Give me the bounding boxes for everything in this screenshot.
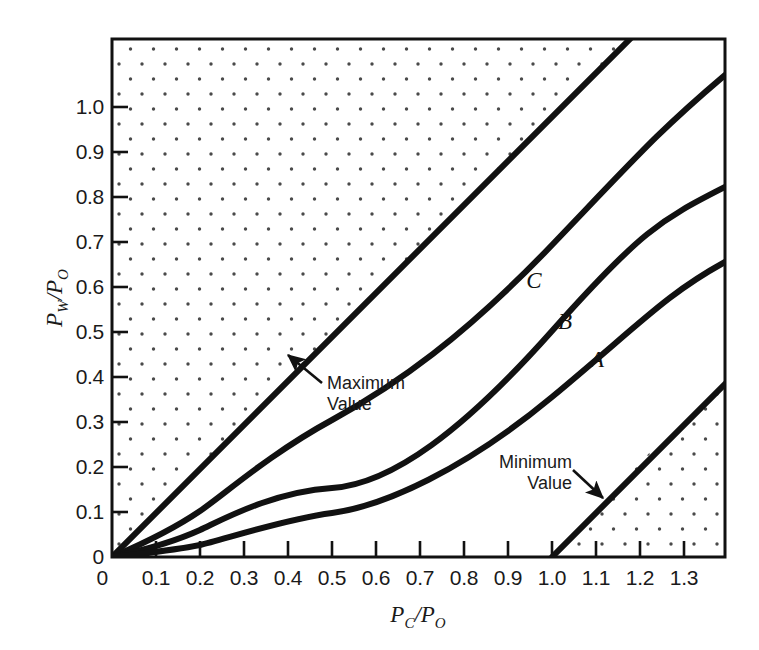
x-axis-title-den: P: [421, 602, 435, 627]
y-tick-label-0.9: 0.9: [76, 140, 104, 164]
x-tick-label-0.9: 0.9: [494, 566, 522, 590]
x-tick-label-0.1: 0.1: [142, 566, 170, 590]
y-tick-label-1.0: 1.0: [76, 95, 104, 119]
curve-label-b: B: [558, 309, 572, 335]
minimum-value-annotation: Minimum Value: [480, 452, 572, 494]
x-tick-label-0.5: 0.5: [318, 566, 346, 590]
y-tick-label-0.5: 0.5: [76, 320, 104, 344]
maximum-value-annotation: Maximum Value: [327, 373, 405, 415]
y-tick-label-0.8: 0.8: [76, 185, 104, 209]
x-tick-label-0.8: 0.8: [450, 566, 478, 590]
x-axis-title: PC/PO: [390, 602, 445, 632]
x-tick-label-1.1: 1.1: [582, 566, 610, 590]
x-tick-label-0: 0: [97, 566, 108, 590]
y-tick-label-0.6: 0.6: [76, 275, 104, 299]
y-tick-label-0.4: 0.4: [76, 365, 104, 389]
figure-container: 0 0.1 0.2 0.3 0.4 0.5 0.6 0.7 0.8 0.9 1.…: [0, 0, 759, 650]
x-tick-label-1.3: 1.3: [670, 566, 698, 590]
x-tick-label-0.3: 0.3: [230, 566, 258, 590]
y-tick-label-0.3: 0.3: [76, 410, 104, 434]
x-tick-label-0.7: 0.7: [406, 566, 434, 590]
x-tick-label-1.2: 1.2: [626, 566, 654, 590]
x-tick-label-0.6: 0.6: [362, 566, 390, 590]
y-axis-title-num-sub: W: [55, 300, 71, 313]
chart-plot-area: [0, 0, 759, 650]
y-axis-title-den: P: [42, 280, 67, 294]
y-axis-title-den-sub: O: [55, 269, 71, 280]
y-tick-label-0.7: 0.7: [76, 230, 104, 254]
y-tick-label-0.1: 0.1: [76, 500, 104, 524]
x-axis-title-num: P: [390, 602, 404, 627]
y-axis-title-num: P: [42, 313, 67, 327]
minimum-value-arrow: [573, 470, 603, 498]
x-tick-label-0.4: 0.4: [274, 566, 302, 590]
y-axis-title: PW/PO: [42, 269, 72, 327]
x-tick-label-0.2: 0.2: [186, 566, 214, 590]
curve-label-a: A: [590, 347, 604, 373]
y-tick-label-0: 0: [93, 545, 104, 569]
x-axis-title-num-sub: C: [404, 615, 414, 631]
x-axis-title-den-sub: O: [435, 615, 446, 631]
y-tick-label-0.2: 0.2: [76, 455, 104, 479]
x-tick-label-1.0: 1.0: [538, 566, 566, 590]
curve-label-c: C: [526, 268, 541, 294]
